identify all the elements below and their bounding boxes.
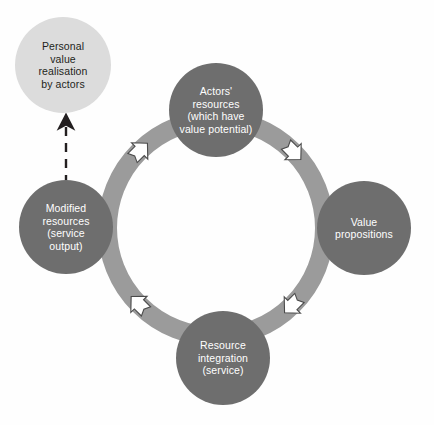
node-circle-modified-resources[interactable] (19, 180, 113, 274)
node-circle-resource-integration[interactable] (176, 311, 270, 405)
node-circle-actors-resources[interactable] (169, 63, 263, 157)
node-circle-value-propositions[interactable] (317, 181, 411, 275)
diagram-canvas: Personal value realisation by actors Act… (0, 0, 434, 425)
node-circle-personal-value-realisation[interactable] (15, 17, 111, 113)
value-cocreation-cycle-diagram (0, 0, 434, 425)
